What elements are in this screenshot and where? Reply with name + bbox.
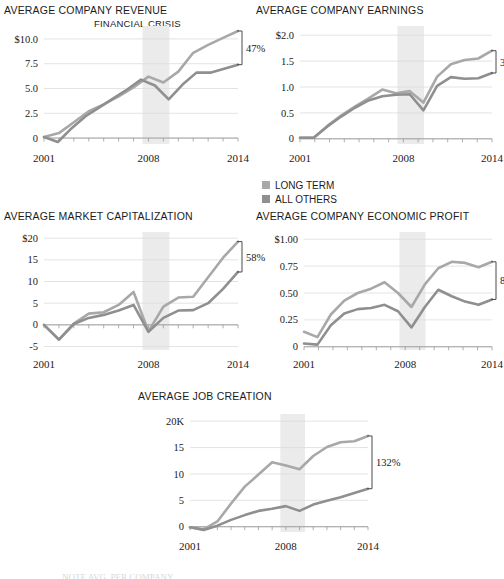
series-line-all-others — [304, 290, 492, 345]
x-tick-label: 2001 — [33, 152, 55, 164]
legend-label-long-term: LONG TERM — [275, 180, 334, 191]
y-tick-label: 0 — [33, 133, 38, 144]
gap-percent-label: 132% — [376, 457, 401, 468]
y-tick-label: 1.0 — [281, 82, 294, 93]
y-tick-label: 2.5 — [25, 108, 38, 119]
crisis-band — [142, 232, 169, 350]
series-line-all-others — [44, 65, 238, 142]
multi-panel-chart-figure: AVERAGE COMPANY REVENUE FINANCIAL CRISIS… — [0, 0, 504, 579]
x-tick-label: 2008 — [137, 358, 160, 370]
y-tick-label: 15 — [28, 254, 39, 265]
gap-percent-label: 81% — [500, 275, 504, 286]
series-line-long-term — [190, 436, 368, 529]
series-line-all-others — [190, 489, 368, 530]
legend: LONG TERM ALL OTHERS — [262, 178, 337, 206]
x-tick-label: 2008 — [392, 152, 415, 164]
gap-bracket — [491, 51, 496, 73]
y-tick-label: 10 — [28, 276, 39, 287]
y-tick-label: 15 — [174, 442, 185, 453]
y-tick-label: -5 — [29, 341, 38, 352]
legend-item-all-others: ALL OTHERS — [262, 192, 337, 206]
x-tick-label: 2014 — [227, 358, 250, 370]
panel-average-company-economic-profit: AVERAGE COMPANY ECONOMIC PROFIT 00.250.5… — [256, 210, 504, 380]
y-tick-label: 0 — [293, 341, 298, 352]
plot-area-job-creation: 05101520K200120082014132% — [128, 412, 408, 562]
y-tick-label: $10.0 — [14, 34, 38, 45]
panel-title-earnings: AVERAGE COMPANY EARNINGS — [256, 4, 424, 16]
panel-average-company-revenue: AVERAGE COMPANY REVENUE FINANCIAL CRISIS… — [4, 4, 252, 174]
plot-area-revenue: 02.55.07.5$10.020012008201447% — [4, 24, 252, 174]
crisis-band — [397, 26, 424, 144]
legend-swatch-all-others-icon — [262, 195, 270, 203]
x-tick-label: 2014 — [227, 152, 250, 164]
y-tick-label: 5 — [33, 298, 38, 309]
gap-bracket — [237, 242, 242, 272]
gap-bracket — [367, 436, 372, 489]
panel-average-market-capitalization: AVERAGE MARKET CAPITALIZATION -5051015$2… — [4, 210, 252, 380]
x-tick-label: 2014 — [481, 152, 504, 164]
figure-footnote: NOTE AVG. PER COMPANY — [62, 572, 174, 579]
y-tick-label: $20 — [22, 233, 38, 244]
y-tick-label: 0 — [289, 133, 294, 144]
gap-percent-label: 36% — [500, 57, 504, 68]
x-tick-label: 2014 — [481, 358, 504, 370]
legend-swatch-long-term-icon — [262, 181, 270, 189]
y-tick-label: 0.25 — [280, 314, 298, 325]
panel-average-job-creation: AVERAGE JOB CREATION 05101520K2001200820… — [128, 390, 408, 570]
x-tick-label: 2001 — [293, 358, 315, 370]
x-tick-label: 2008 — [394, 358, 417, 370]
crisis-band — [280, 414, 305, 532]
y-tick-label: 0.5 — [281, 108, 294, 119]
series-line-all-others — [44, 272, 238, 340]
x-tick-label: 2008 — [137, 152, 160, 164]
y-tick-label: 0.75 — [280, 261, 298, 272]
legend-label-all-others: ALL OTHERS — [275, 194, 337, 205]
plot-area-economic-profit: 00.250.500.75$1.0020012008201481% — [256, 230, 504, 380]
x-tick-label: 2014 — [357, 540, 380, 552]
plot-area-earnings: 00.51.01.5$2.020012008201436% — [256, 24, 504, 174]
x-tick-label: 2001 — [33, 358, 55, 370]
y-tick-label: $1.00 — [274, 234, 298, 245]
y-tick-label: 5 — [179, 495, 184, 506]
panel-average-company-earnings: AVERAGE COMPANY EARNINGS 00.51.01.5$2.02… — [256, 4, 504, 204]
x-tick-label: 2008 — [275, 540, 298, 552]
x-tick-label: 2001 — [179, 540, 201, 552]
x-tick-label: 2001 — [289, 152, 311, 164]
panel-title-revenue: AVERAGE COMPANY REVENUE — [4, 4, 167, 16]
gap-bracket — [491, 262, 496, 300]
series-line-long-term — [44, 31, 238, 137]
panel-title-economic-profit: AVERAGE COMPANY ECONOMIC PROFIT — [256, 210, 469, 222]
y-tick-label: 7.5 — [25, 58, 38, 69]
y-tick-label: 5.0 — [25, 83, 38, 94]
y-tick-label: 1.5 — [281, 56, 294, 67]
panel-title-job-creation: AVERAGE JOB CREATION — [138, 390, 272, 402]
series-line-all-others — [300, 73, 492, 138]
plot-area-market-cap: -5051015$2020012008201458% — [4, 230, 252, 380]
y-tick-label: 20K — [166, 416, 185, 427]
y-tick-label: 10 — [174, 469, 185, 480]
legend-item-long-term: LONG TERM — [262, 178, 337, 192]
panel-title-market-cap: AVERAGE MARKET CAPITALIZATION — [4, 210, 193, 222]
y-tick-label: $2.0 — [276, 30, 294, 41]
y-tick-label: 0 — [179, 521, 184, 532]
y-tick-label: 0 — [33, 319, 38, 330]
y-tick-label: 0.50 — [280, 288, 298, 299]
gap-bracket — [237, 31, 242, 65]
